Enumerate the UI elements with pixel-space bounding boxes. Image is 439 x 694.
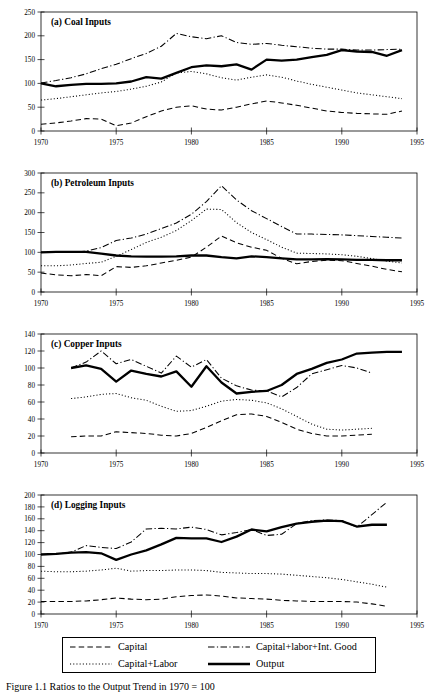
series-line-output	[71, 352, 402, 394]
legend-item-capital: Capital	[69, 642, 207, 652]
y-tick-label: 50	[28, 269, 36, 277]
series-line-capital	[41, 595, 387, 606]
y-tick-label: 300	[24, 170, 35, 178]
figure-caption: Figure 1.1 Ratios to the Output Trend in…	[6, 681, 436, 692]
chart-panel-c: 0204060801001201401970197519801985199019…	[0, 322, 439, 483]
y-tick-label: 0	[31, 611, 35, 619]
chart-panel-b: 0501001502002503001970197519801985199019…	[0, 161, 439, 322]
legend: Capital Capital+labor+Int. Good Capital+…	[62, 637, 376, 673]
chart-panel-a: 050100150200250197019751980198519901995(…	[0, 0, 439, 161]
y-tick-label: 180	[24, 504, 35, 512]
legend-swatch-output-icon	[207, 660, 251, 668]
x-tick-label: 1995	[410, 300, 425, 308]
y-tick-label: 50	[28, 104, 36, 112]
series-line-capital-labor-int	[71, 351, 372, 397]
y-tick-label: 100	[24, 551, 35, 559]
x-tick-label: 1975	[109, 461, 124, 469]
y-tick-label: 100	[24, 365, 35, 373]
x-tick-label: 1970	[34, 139, 49, 147]
y-tick-label: 160	[24, 515, 35, 523]
panel-title: (d) Logging Inputs	[51, 500, 126, 511]
panel-title: (b) Petroleum Inputs	[51, 178, 134, 189]
x-tick-label: 1970	[34, 461, 49, 469]
x-tick-label: 1985	[259, 300, 274, 308]
x-tick-label: 1975	[109, 139, 124, 147]
x-tick-label: 1985	[259, 461, 274, 469]
y-tick-label: 0	[31, 450, 35, 458]
y-tick-label: 20	[28, 433, 36, 441]
y-tick-label: 100	[24, 249, 35, 257]
x-tick-label: 1980	[184, 461, 199, 469]
x-tick-label: 1975	[109, 622, 124, 630]
y-tick-label: 120	[24, 348, 35, 356]
x-tick-label: 1990	[335, 461, 350, 469]
y-tick-label: 20	[28, 599, 36, 607]
plot-frame	[41, 495, 417, 614]
legend-label-capital-labor: Capital+Labor	[118, 659, 178, 669]
series-line-output	[41, 50, 402, 86]
series-line-capital-labor-int	[41, 33, 402, 83]
series-line-capital	[41, 236, 402, 276]
y-tick-label: 140	[24, 527, 35, 535]
y-tick-label: 120	[24, 539, 35, 547]
legend-swatch-capital-labor-int-good-icon	[207, 643, 251, 651]
legend-item-capital-labor: Capital+Labor	[69, 659, 207, 669]
x-tick-label: 1980	[184, 622, 199, 630]
figure-container: 050100150200250197019751980198519901995(…	[0, 0, 439, 694]
series-line-capital-labor	[41, 568, 387, 587]
legend-swatch-capital-icon	[69, 643, 113, 651]
series-line-output	[41, 521, 387, 560]
legend-label-output: Output	[256, 659, 284, 669]
y-tick-label: 80	[28, 382, 36, 390]
series-line-capital-labor	[71, 394, 372, 431]
x-tick-label: 1985	[259, 139, 274, 147]
chart-panel-logging-inputs: 0204060801001201401601802001970197519801…	[0, 483, 439, 644]
y-tick-label: 150	[24, 56, 35, 64]
legend-item-output: Output	[207, 659, 383, 669]
x-tick-label: 1990	[335, 622, 350, 630]
chart-panel-coal-inputs: 050100150200250197019751980198519901995(…	[0, 0, 439, 161]
panel-title: (a) Coal Inputs	[51, 17, 111, 28]
legend-label-capital: Capital	[118, 642, 147, 652]
y-tick-label: 60	[28, 575, 36, 583]
y-tick-label: 100	[24, 80, 35, 88]
plot-frame	[41, 173, 417, 292]
y-tick-label: 250	[24, 9, 35, 17]
y-tick-label: 0	[31, 289, 35, 297]
legend-item-capital-labor-int-good: Capital+labor+Int. Good	[207, 642, 383, 652]
y-tick-label: 40	[28, 416, 36, 424]
chart-panel-d: 0204060801001201401601802001970197519801…	[0, 483, 439, 644]
y-tick-label: 200	[24, 492, 35, 500]
legend-swatch-capital-labor-icon	[69, 660, 113, 668]
x-tick-label: 1970	[34, 300, 49, 308]
series-line-capital-labor-int	[41, 186, 402, 253]
legend-label-capital-labor-int-good: Capital+labor+Int. Good	[256, 642, 357, 652]
y-tick-label: 40	[28, 587, 36, 595]
y-tick-label: 250	[24, 189, 35, 197]
y-tick-label: 200	[24, 32, 35, 40]
x-tick-label: 1995	[410, 461, 425, 469]
x-tick-label: 1975	[109, 300, 124, 308]
x-tick-label: 1985	[259, 622, 274, 630]
y-tick-label: 0	[31, 128, 35, 136]
y-tick-label: 60	[28, 399, 36, 407]
x-tick-label: 1980	[184, 300, 199, 308]
chart-panel-petroleum-inputs: 0501001502002503001970197519801985199019…	[0, 161, 439, 322]
chart-panel-copper-inputs: 0204060801001201401970197519801985199019…	[0, 322, 439, 483]
y-tick-label: 200	[24, 209, 35, 217]
x-tick-label: 1970	[34, 622, 49, 630]
x-tick-label: 1990	[335, 139, 350, 147]
y-tick-label: 150	[24, 229, 35, 237]
x-tick-label: 1990	[335, 300, 350, 308]
x-tick-label: 1995	[410, 139, 425, 147]
series-line-capital-labor	[41, 72, 402, 101]
panel-title: (c) Copper Inputs	[51, 339, 122, 350]
y-tick-label: 80	[28, 563, 36, 571]
x-tick-label: 1980	[184, 139, 199, 147]
series-line-capital	[41, 101, 402, 126]
x-tick-label: 1995	[410, 622, 425, 630]
series-line-capital	[71, 414, 372, 437]
series-line-output	[41, 252, 402, 260]
y-tick-label: 140	[24, 331, 35, 339]
